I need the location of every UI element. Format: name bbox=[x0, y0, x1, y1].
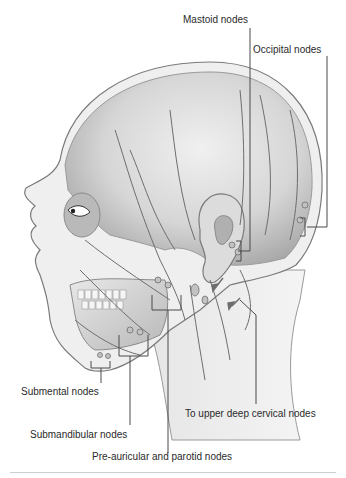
label-mastoid-nodes: Mastoid nodes bbox=[183, 14, 248, 25]
label-upper-deep-cervical-nodes: To upper deep cervical nodes bbox=[185, 408, 316, 419]
label-submandibular-nodes: Submandibular nodes bbox=[30, 429, 127, 440]
label-submental-nodes: Submental nodes bbox=[21, 386, 99, 397]
label-occipital-nodes: Occipital nodes bbox=[253, 44, 321, 55]
head-lymph-diagram bbox=[0, 0, 346, 478]
footer-divider bbox=[10, 472, 336, 473]
label-preauricular-parotid-nodes: Pre-auricular and parotid nodes bbox=[92, 451, 232, 462]
